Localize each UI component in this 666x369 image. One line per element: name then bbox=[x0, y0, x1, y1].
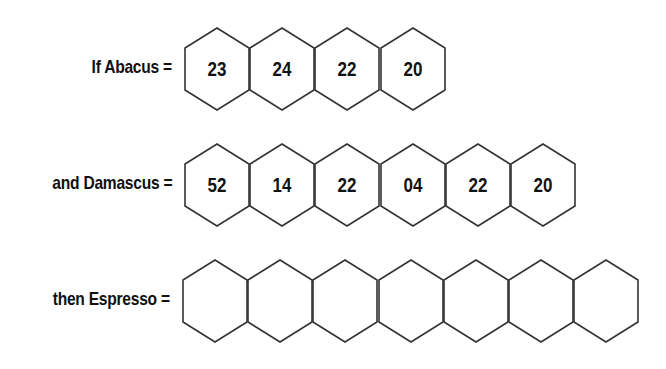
hex-cell: 20 bbox=[510, 143, 576, 227]
hex-value: 22 bbox=[450, 143, 506, 227]
hex-value bbox=[252, 259, 308, 343]
hex-cell: 22 bbox=[314, 27, 380, 111]
hex-value: 20 bbox=[515, 143, 571, 227]
hex-value bbox=[383, 259, 439, 343]
hex-cell[interactable] bbox=[378, 259, 444, 343]
hex-cell[interactable] bbox=[247, 259, 313, 343]
hex-cell: 23 bbox=[184, 27, 250, 111]
hex-cell: 04 bbox=[380, 143, 446, 227]
hex-cell[interactable] bbox=[443, 259, 509, 343]
hex-cell: 52 bbox=[184, 143, 250, 227]
hex-value: 24 bbox=[254, 27, 310, 111]
hex-cell[interactable] bbox=[182, 259, 248, 343]
hex-value: 22 bbox=[319, 143, 375, 227]
hex-cell: 20 bbox=[380, 27, 446, 111]
row-label: If Abacus = bbox=[92, 56, 172, 78]
row-label: and Damascus = bbox=[52, 172, 172, 194]
hex-value bbox=[448, 259, 504, 343]
hex-value bbox=[578, 259, 634, 343]
hex-value: 20 bbox=[385, 27, 441, 111]
hex-value: 22 bbox=[319, 27, 375, 111]
hex-value bbox=[317, 259, 373, 343]
hex-value: 04 bbox=[385, 143, 441, 227]
hex-cell[interactable] bbox=[508, 259, 574, 343]
hex-cell: 22 bbox=[314, 143, 380, 227]
hex-value bbox=[187, 259, 243, 343]
hex-cell[interactable] bbox=[573, 259, 639, 343]
hex-value: 23 bbox=[189, 27, 245, 111]
hex-value: 14 bbox=[254, 143, 310, 227]
row-label: then Espresso = bbox=[53, 288, 170, 310]
hex-cell: 14 bbox=[249, 143, 315, 227]
hex-value bbox=[513, 259, 569, 343]
hex-cell: 24 bbox=[249, 27, 315, 111]
hex-cell: 22 bbox=[445, 143, 511, 227]
hex-cell[interactable] bbox=[312, 259, 378, 343]
hex-value: 52 bbox=[189, 143, 245, 227]
